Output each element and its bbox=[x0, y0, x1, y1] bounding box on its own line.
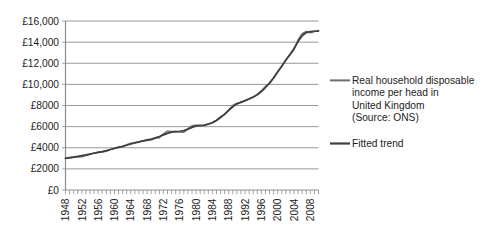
x-tick-label-2000: 2000 bbox=[272, 198, 283, 221]
legend-label-observed-line-3: United Kingdom bbox=[352, 100, 425, 111]
series-line-observed bbox=[66, 31, 319, 159]
x-tick-label-1960: 1960 bbox=[109, 198, 120, 221]
x-tick-label-2008: 2008 bbox=[305, 198, 316, 221]
x-axis-tickmarks bbox=[66, 190, 319, 194]
y-tick-label-12000: £12,000 bbox=[22, 58, 59, 69]
legend-label-observed-line-2: income per head in bbox=[352, 87, 439, 98]
y-tick-label-2000: £2000 bbox=[31, 163, 60, 174]
x-tick-label-1968: 1968 bbox=[142, 198, 153, 221]
y-tick-label-4000: £4000 bbox=[31, 142, 60, 153]
x-tick-label-1984: 1984 bbox=[207, 198, 218, 221]
legend-label-observed-line-4: (Source: ONS) bbox=[352, 112, 419, 123]
x-tick-label-1964: 1964 bbox=[125, 198, 136, 221]
x-tick-label-1956: 1956 bbox=[93, 198, 104, 221]
x-tick-label-2004: 2004 bbox=[289, 198, 300, 221]
x-tick-label-1980: 1980 bbox=[191, 198, 202, 221]
x-tick-label-1948: 1948 bbox=[60, 198, 71, 221]
x-tick-label-1972: 1972 bbox=[158, 198, 169, 221]
data-series bbox=[66, 31, 319, 159]
legend-label-trend-line-1: Fitted trend bbox=[352, 138, 404, 149]
y-axis-tick-labels: £0£2000£4000£6000£8000£10,000£12,000£14,… bbox=[22, 16, 59, 196]
y-tick-label-16000: £16,000 bbox=[22, 16, 59, 27]
x-tick-label-1992: 1992 bbox=[240, 198, 251, 221]
x-tick-label-1976: 1976 bbox=[174, 198, 185, 221]
y-tick-label-8000: £8000 bbox=[31, 100, 60, 111]
x-tick-label-1952: 1952 bbox=[77, 198, 88, 221]
y-tick-label-10000: £10,000 bbox=[22, 79, 59, 90]
y-tick-label-0: £0 bbox=[48, 185, 60, 196]
chart-container: £0£2000£4000£6000£8000£10,000£12,000£14,… bbox=[0, 0, 495, 242]
x-tick-label-1988: 1988 bbox=[223, 198, 234, 221]
y-tick-label-6000: £6000 bbox=[31, 121, 60, 132]
chart-canvas: £0£2000£4000£6000£8000£10,000£12,000£14,… bbox=[0, 0, 495, 242]
gridlines bbox=[66, 21, 319, 169]
chart-legend: Real household disposableincome per head… bbox=[330, 75, 475, 149]
x-tick-label-1996: 1996 bbox=[256, 198, 267, 221]
legend-label-observed-line-1: Real household disposable bbox=[352, 75, 475, 86]
x-axis-tick-labels: 1948195219561960196419681972197619801984… bbox=[60, 198, 316, 221]
y-tick-label-14000: £14,000 bbox=[22, 37, 59, 48]
series-line-fitted-trend bbox=[66, 31, 319, 158]
